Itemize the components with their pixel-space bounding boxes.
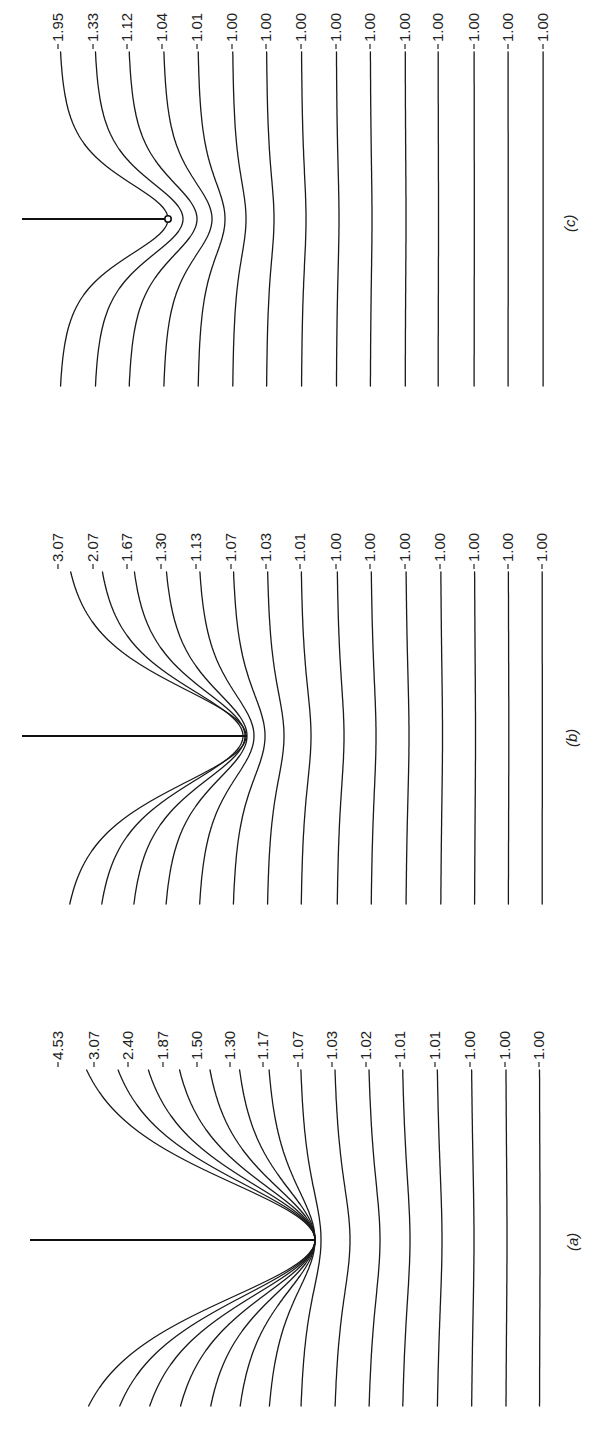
- contour-line: [233, 572, 265, 904]
- contour-value-label: 1.00: [499, 533, 516, 562]
- contour-line: [540, 1070, 541, 1406]
- contour-value-label: 4.53: [49, 1031, 66, 1060]
- contour-value-label: 3.07: [85, 1031, 102, 1060]
- contour-line: [403, 1070, 410, 1406]
- contour-line: [148, 1070, 315, 1406]
- figure-panels: 1.951.331.121.041.011.001.001.001.001.00…: [22, 13, 581, 1406]
- contour-line: [301, 572, 311, 904]
- contour-line: [134, 572, 245, 904]
- contour-value-label: 1.01: [188, 13, 205, 42]
- contour-line: [405, 52, 406, 386]
- contour-value-label: 1.01: [291, 533, 308, 562]
- contour-line: [166, 572, 247, 904]
- contour-value-label: 1.00: [499, 13, 516, 42]
- contour-line: [87, 1070, 315, 1406]
- contour-value-label: 1.50: [188, 1031, 205, 1060]
- crack-tip-circle: [165, 216, 171, 222]
- contour-value-label: 2.40: [119, 1031, 136, 1060]
- contour-line: [437, 1070, 442, 1406]
- contour-value-label: 1.00: [361, 533, 378, 562]
- panel-b: 3.072.071.671.301.131.071.031.011.001.00…: [22, 533, 580, 904]
- contour-value-label: 1.07: [289, 1031, 306, 1060]
- panel-c: 1.951.331.121.041.011.001.001.001.001.00…: [22, 13, 578, 386]
- contour-line: [472, 1070, 474, 1406]
- contour-line: [233, 52, 246, 386]
- contour-value-label: 1.00: [530, 1031, 547, 1060]
- contour-value-label: 1.00: [496, 1031, 513, 1060]
- contour-value-label: 1.00: [465, 13, 482, 42]
- contour-value-label: 1.07: [222, 533, 239, 562]
- contour-value-label: 1.33: [84, 13, 101, 42]
- contour-line: [441, 572, 443, 904]
- contour-line: [180, 1070, 315, 1406]
- contour-value-label: 1.00: [431, 533, 448, 562]
- panel-label: (a): [564, 1233, 581, 1251]
- contour-value-label: 1.01: [391, 1031, 408, 1060]
- contour-line: [70, 572, 246, 904]
- contour-value-label: 1.02: [357, 1031, 374, 1060]
- contour-value-label: 1.00: [534, 13, 551, 42]
- panel-label: (b): [563, 729, 580, 747]
- panel-a: 4.533.072.401.871.501.301.171.071.031.02…: [30, 1031, 581, 1406]
- contour-value-label: 1.00: [223, 13, 240, 42]
- contour-line: [337, 572, 344, 904]
- contour-value-label: 1.00: [327, 13, 344, 42]
- panel-label: (c): [561, 215, 578, 233]
- contour-value-label: 1.87: [154, 1031, 171, 1060]
- contour-value-label: 2.07: [84, 533, 101, 562]
- contour-line: [337, 52, 340, 386]
- contour-value-label: 1.00: [396, 533, 413, 562]
- contour-value-label: 1.03: [257, 533, 274, 562]
- contour-line: [102, 572, 243, 904]
- contour-value-label: 1.00: [461, 1031, 478, 1060]
- contour-value-label: 1.03: [323, 1031, 340, 1060]
- contour-line: [268, 572, 284, 904]
- contour-value-label: 1.13: [187, 533, 204, 562]
- contour-value-label: 1.04: [153, 13, 170, 42]
- contour-line: [369, 1070, 380, 1406]
- crack-contour-figure: 1.951.331.121.041.011.001.001.001.001.00…: [0, 0, 607, 1447]
- contour-line: [118, 1070, 315, 1406]
- contour-line: [269, 1070, 315, 1406]
- contour-line: [370, 52, 372, 386]
- contour-value-label: 1.00: [327, 533, 344, 562]
- contour-value-label: 1.00: [292, 13, 309, 42]
- contour-line: [301, 1070, 321, 1406]
- contour-value-label: 1.00: [465, 533, 482, 562]
- contour-value-label: 1.00: [533, 533, 550, 562]
- contour-value-label: 1.30: [221, 1031, 238, 1060]
- contour-value-label: 1.00: [396, 13, 413, 42]
- contour-value-label: 1.30: [152, 533, 169, 562]
- contour-line: [267, 52, 274, 386]
- contour-value-label: 1.00: [257, 13, 274, 42]
- contour-value-label: 1.95: [49, 13, 66, 42]
- contour-value-label: 1.00: [429, 13, 446, 42]
- contour-line: [406, 572, 409, 904]
- contour-value-label: 1.12: [118, 13, 135, 42]
- contour-line: [475, 572, 476, 904]
- contour-value-label: 1.67: [118, 533, 135, 562]
- contour-value-label: 1.01: [426, 1031, 443, 1060]
- contour-value-label: 1.00: [361, 13, 378, 42]
- contour-value-label: 3.07: [49, 533, 66, 562]
- contour-line: [335, 1070, 350, 1406]
- contour-line: [302, 52, 306, 386]
- contour-value-label: 1.17: [254, 1031, 271, 1060]
- contour-line: [371, 572, 376, 904]
- contour-line: [506, 1070, 507, 1406]
- contour-line: [210, 1070, 315, 1406]
